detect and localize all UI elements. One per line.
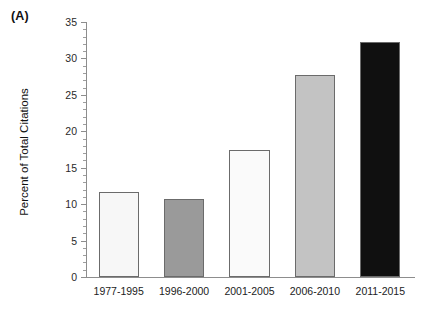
tick-mark bbox=[83, 109, 86, 110]
plot-area: 05101520253035 bbox=[86, 22, 413, 277]
tick-mark bbox=[83, 102, 86, 103]
y-axis-title: Percent of Total Citations bbox=[18, 88, 30, 216]
tick-mark bbox=[83, 73, 86, 74]
tick-mark bbox=[83, 262, 86, 263]
bar bbox=[360, 42, 400, 277]
tick-mark bbox=[83, 248, 86, 249]
tick-mark bbox=[81, 168, 86, 169]
tick-mark bbox=[81, 241, 86, 242]
tick-mark bbox=[83, 51, 86, 52]
tick-mark bbox=[83, 146, 86, 147]
tick-mark bbox=[83, 139, 86, 140]
tick-mark bbox=[83, 175, 86, 176]
x-tick-label: 2006-2010 bbox=[290, 285, 340, 297]
y-tick-label: 0 bbox=[71, 271, 77, 283]
bar bbox=[229, 150, 269, 277]
bar bbox=[164, 199, 204, 277]
tick-mark bbox=[83, 226, 86, 227]
tick-mark bbox=[83, 29, 86, 30]
x-tick-label: 1996-2000 bbox=[159, 285, 209, 297]
tick-mark bbox=[81, 204, 86, 205]
tick-mark bbox=[83, 124, 86, 125]
tick-mark bbox=[83, 211, 86, 212]
tick-mark bbox=[83, 88, 86, 89]
bar bbox=[295, 75, 335, 277]
tick-mark bbox=[81, 131, 86, 132]
bar bbox=[99, 192, 139, 277]
tick-mark bbox=[83, 255, 86, 256]
y-tick-label: 10 bbox=[65, 198, 77, 210]
y-tick-label: 15 bbox=[65, 162, 77, 174]
tick-mark bbox=[81, 95, 86, 96]
x-tick-label: 2011-2015 bbox=[356, 285, 405, 297]
x-axis-line bbox=[86, 277, 415, 278]
x-tick-label: 1977-1995 bbox=[94, 285, 144, 297]
tick-mark bbox=[83, 153, 86, 154]
figure-panel-a: (A) Percent of Total Citations 051015202… bbox=[0, 0, 430, 325]
tick-mark bbox=[83, 197, 86, 198]
x-tick-label: 2001-2005 bbox=[224, 285, 274, 297]
tick-mark bbox=[83, 117, 86, 118]
tick-mark bbox=[83, 219, 86, 220]
tick-mark bbox=[81, 58, 86, 59]
panel-label: (A) bbox=[11, 9, 29, 23]
tick-mark bbox=[83, 44, 86, 45]
tick-mark bbox=[81, 22, 86, 23]
y-tick-label: 30 bbox=[65, 52, 77, 64]
tick-mark bbox=[83, 160, 86, 161]
y-tick-label: 25 bbox=[65, 89, 77, 101]
tick-mark bbox=[83, 270, 86, 271]
tick-mark bbox=[83, 190, 86, 191]
tick-mark bbox=[83, 37, 86, 38]
tick-mark bbox=[83, 182, 86, 183]
y-tick-label: 5 bbox=[71, 235, 77, 247]
tick-mark bbox=[83, 66, 86, 67]
tick-mark bbox=[83, 233, 86, 234]
tick-mark bbox=[81, 277, 86, 278]
y-tick-label: 35 bbox=[65, 16, 77, 28]
tick-mark bbox=[83, 80, 86, 81]
y-tick-label: 20 bbox=[65, 125, 77, 137]
